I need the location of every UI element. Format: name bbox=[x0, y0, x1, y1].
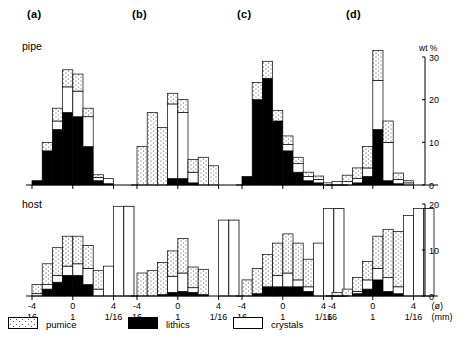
histogram-bar-segment bbox=[393, 232, 403, 287]
histogram-bar-segment bbox=[63, 70, 73, 87]
x-tick-label-phi: 0 bbox=[175, 301, 180, 311]
legend-swatch-lithics bbox=[128, 317, 158, 329]
histogram-bar-segment bbox=[393, 287, 403, 294]
histogram-bar-segment bbox=[178, 179, 188, 185]
histogram-bar-segment bbox=[383, 229, 393, 277]
histogram-bar-segment bbox=[83, 268, 93, 284]
x-tick-label-phi: 0 bbox=[280, 301, 285, 311]
histogram-bar-segment bbox=[373, 236, 383, 268]
histogram-bar-segment bbox=[303, 172, 313, 176]
histogram-bar-segment bbox=[293, 280, 303, 287]
histogram-bar-segment bbox=[188, 292, 198, 296]
histogram-bar-segment bbox=[42, 151, 52, 185]
histogram-bar-segment bbox=[262, 61, 272, 78]
histogram-bar-segment bbox=[157, 262, 167, 294]
histogram-bar-segment bbox=[73, 236, 83, 264]
histogram-bar-segment bbox=[147, 112, 157, 185]
histogram-bar-segment bbox=[63, 87, 73, 113]
histogram-bar-segment bbox=[383, 181, 393, 185]
histogram-bar-segment bbox=[283, 287, 293, 296]
histogram-bar-segment bbox=[283, 273, 293, 287]
histogram-bar-segment bbox=[52, 130, 62, 185]
histogram-bar-segment bbox=[52, 108, 62, 121]
histogram-bar-segment bbox=[83, 245, 93, 268]
histogram-bar-segment bbox=[63, 275, 73, 296]
histogram-bar-segment bbox=[188, 288, 198, 293]
histogram-bar-segment bbox=[273, 243, 283, 275]
histogram-bar-segment bbox=[383, 142, 393, 180]
x-unit-phi: (ø) bbox=[432, 301, 444, 311]
histogram-bar-segment bbox=[262, 287, 272, 296]
legend-label-crystals: crystals bbox=[271, 319, 303, 330]
x-tick-label-phi: 4 bbox=[111, 301, 116, 311]
histogram-bar-segment bbox=[252, 100, 262, 185]
histogram-bar-segment bbox=[283, 151, 293, 185]
histogram-bar-segment bbox=[93, 175, 103, 178]
x-tick-label-phi: -4 bbox=[328, 301, 336, 311]
histogram-bar-segment bbox=[219, 220, 229, 296]
histogram-bar-segment bbox=[178, 239, 188, 274]
histogram-bar-segment bbox=[73, 264, 83, 276]
y-tick-label: 30 bbox=[429, 53, 439, 63]
legend-swatch-pumice bbox=[8, 317, 38, 329]
x-tick-label-phi: -4 bbox=[238, 301, 246, 311]
histogram-bar-segment bbox=[403, 181, 413, 183]
histogram-bar-segment bbox=[293, 164, 303, 173]
y-tick-label: 0 bbox=[429, 292, 434, 302]
x-tick-label-phi: 4 bbox=[411, 301, 416, 311]
histogram-bar-segment bbox=[188, 172, 198, 183]
histogram-bar-segment bbox=[283, 136, 293, 145]
histogram-bar-segment bbox=[303, 181, 313, 185]
histogram-bar-segment bbox=[42, 289, 52, 296]
histogram-bar-segment bbox=[373, 268, 383, 280]
histogram-bar-segment bbox=[293, 157, 303, 163]
histogram-bar-segment bbox=[137, 273, 147, 296]
figure-root: (a) (b) (c) (d) pipe host -4160141/16-41… bbox=[0, 0, 459, 337]
histogram-bar-segment bbox=[342, 289, 352, 296]
histogram-bar-segment bbox=[393, 173, 403, 179]
histogram-bar-segment bbox=[363, 262, 373, 280]
histogram-bar-segment bbox=[103, 179, 113, 184]
histogram-bar-segment bbox=[303, 291, 313, 296]
histogram-bar-segment bbox=[363, 289, 373, 296]
histogram-bar-segment bbox=[83, 147, 93, 185]
x-tick-label-mm: 1 bbox=[370, 312, 375, 322]
histogram-bar-segment bbox=[283, 144, 293, 150]
histogram-bar-segment bbox=[42, 142, 52, 151]
histogram-bar-segment bbox=[73, 91, 83, 117]
x-tick-label-phi: -4 bbox=[133, 301, 141, 311]
histogram-bar-segment bbox=[168, 292, 178, 296]
histogram-bar-segment bbox=[273, 275, 283, 287]
histogram-bar-segment bbox=[273, 110, 283, 121]
histogram-bar-segment bbox=[198, 269, 208, 294]
histogram-bar-segment bbox=[332, 182, 342, 185]
x-tick-label-phi: 4 bbox=[216, 301, 221, 311]
histogram-bar-segment bbox=[114, 206, 124, 296]
histogram-bar-segment bbox=[363, 168, 373, 177]
y-tick-label: 10 bbox=[429, 246, 439, 256]
histogram-bar-segment bbox=[188, 159, 198, 172]
histogram-bar-segment bbox=[178, 273, 188, 291]
histogram-bar-segment bbox=[42, 285, 52, 290]
histogram-bar-segment bbox=[414, 209, 424, 296]
histogram-bar-segment bbox=[363, 147, 373, 168]
histogram-bar-segment bbox=[334, 209, 344, 296]
y-tick-label: 20 bbox=[429, 95, 439, 105]
y-tick-label: 10 bbox=[429, 138, 439, 148]
histogram-bar-segment bbox=[52, 282, 62, 296]
histogram-bar-segment bbox=[168, 104, 178, 179]
x-tick-label-mm: 1/16 bbox=[405, 312, 423, 322]
x-tick-label-mm: 16 bbox=[327, 312, 337, 322]
histogram-bar-segment bbox=[383, 121, 393, 142]
histogram-bar-segment bbox=[52, 275, 62, 282]
y-axis-title: wt % bbox=[418, 43, 438, 53]
histogram-bar-segment bbox=[124, 206, 134, 296]
x-tick-label-mm: 1/16 bbox=[210, 312, 228, 322]
histogram-bar-segment bbox=[83, 108, 93, 117]
legend-label-pumice: pumice bbox=[46, 319, 77, 330]
x-tick-label-phi: 0 bbox=[70, 301, 75, 311]
histogram-bar-segment bbox=[93, 177, 103, 180]
histogram-canvas: -4160141/16-4160141/16-4160141/16-416014… bbox=[0, 0, 459, 337]
histogram-bar-segment bbox=[63, 266, 73, 275]
x-tick-label-mm: 1/16 bbox=[105, 312, 123, 322]
